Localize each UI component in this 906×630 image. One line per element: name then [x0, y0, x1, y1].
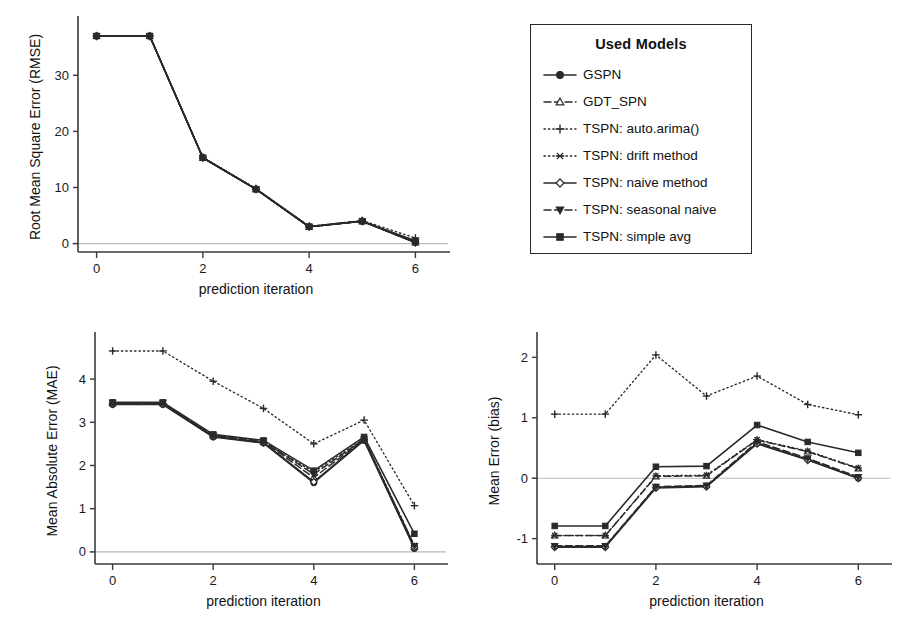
- series-line: [555, 442, 859, 546]
- x-axis-title: prediction iteration: [206, 593, 320, 609]
- data-point-marker: [603, 523, 608, 528]
- legend-marker-icon: [540, 93, 580, 111]
- legend-title: Used Models: [531, 36, 751, 52]
- series-tspn-auto-arima: [551, 351, 862, 418]
- data-point-marker: [754, 422, 759, 427]
- series-line: [97, 36, 416, 241]
- legend-key-tspn-naive: [540, 174, 580, 192]
- series-line: [113, 402, 415, 533]
- series-line: [97, 36, 416, 242]
- legend-marker-icon: [540, 120, 580, 138]
- legend-item-list: GSPNGDT_SPNTSPN: auto.arima()TSPN: drift…: [531, 61, 751, 250]
- y-tick-label: 10: [55, 180, 69, 195]
- data-point-marker: [110, 400, 115, 405]
- series-line: [97, 36, 416, 238]
- data-point-marker: [253, 186, 258, 191]
- data-point-marker: [653, 464, 658, 469]
- data-point-marker: [200, 155, 205, 160]
- rmse-chart: 01020300246prediction iterationRoot Mean…: [0, 0, 470, 310]
- legend-item-tspn-naive-method[interactable]: TSPN: naive method: [531, 169, 751, 196]
- series-line: [97, 36, 416, 242]
- data-point-marker: [211, 432, 216, 437]
- y-tick-label: 3: [79, 415, 86, 430]
- x-tick-label: 4: [753, 573, 760, 588]
- legend-item-gdt-spn[interactable]: GDT_SPN: [531, 88, 751, 115]
- series-gdt-spn: [93, 33, 418, 245]
- legend-marker-icon: [540, 66, 580, 84]
- legend-item-tspn-seasonal-naive[interactable]: TSPN: seasonal naive: [531, 196, 751, 223]
- y-axis-title: Mean Error (bias): [486, 397, 502, 506]
- y-tick-label: 0: [62, 236, 69, 251]
- y-axis-title: Root Mean Square Error (RMSE): [27, 34, 43, 240]
- x-tick-label: 4: [310, 573, 317, 588]
- legend-marker-icon: [540, 228, 580, 246]
- legend-key-tspn-simple-avg: [540, 228, 580, 246]
- x-axis-title: prediction iteration: [649, 593, 763, 609]
- x-tick-label: 6: [411, 573, 418, 588]
- series-line: [555, 443, 859, 546]
- series-gspn: [94, 33, 419, 245]
- y-tick-label: 4: [79, 372, 86, 387]
- bias-chart-panel: -10120246prediction iterationMean Error …: [440, 310, 906, 630]
- series-line: [113, 405, 415, 549]
- legend-key-gspn: [540, 66, 580, 84]
- rmse-chart-panel: 01020300246prediction iterationRoot Mean…: [0, 0, 470, 310]
- legend-item-label: TSPN: seasonal naive: [583, 202, 717, 217]
- data-point-marker: [310, 440, 318, 448]
- y-tick-label: -1: [516, 531, 528, 546]
- data-point-marker: [805, 439, 810, 444]
- x-tick-label: 6: [855, 573, 862, 588]
- data-point-marker: [855, 411, 863, 419]
- data-point-marker: [209, 377, 217, 385]
- legend-item-tspn-simple-avg[interactable]: TSPN: simple avg: [531, 223, 751, 250]
- data-point-marker: [360, 218, 365, 223]
- series-line: [113, 404, 415, 546]
- y-tick-label: 0: [79, 544, 86, 559]
- data-point-marker: [704, 463, 709, 468]
- series-tspn-simple-avg: [94, 33, 418, 243]
- legend-key-tspn-seasonal-naive: [540, 201, 580, 219]
- legend-item-tspn-auto-arima[interactable]: TSPN: auto.arima(): [531, 115, 751, 142]
- data-point-marker: [159, 347, 167, 355]
- legend-key-gdt-spn: [540, 93, 580, 111]
- series-gdt-spn: [109, 400, 417, 549]
- series-tspn-simple-avg: [110, 400, 417, 537]
- data-point-marker: [413, 238, 418, 243]
- series-line: [113, 351, 415, 506]
- series-line: [97, 36, 416, 242]
- y-tick-label: 1: [79, 501, 86, 516]
- y-axis-title: Mean Absolute Error (MAE): [44, 365, 60, 536]
- series-tspn-seasonal-naive: [93, 34, 418, 246]
- x-tick-label: 0: [551, 573, 558, 588]
- x-tick-label: 4: [306, 261, 313, 276]
- legend-marker-plus: [556, 124, 565, 133]
- legend-marker-icon: [540, 201, 580, 219]
- data-point-marker: [360, 416, 368, 424]
- series-tspn-auto-arima: [93, 32, 419, 241]
- x-tick-label: 0: [93, 261, 100, 276]
- x-tick-label: 6: [412, 261, 419, 276]
- legend-item-label: TSPN: drift method: [583, 148, 698, 163]
- data-point-marker: [551, 410, 559, 418]
- legend-item-label: TSPN: auto.arima(): [583, 121, 699, 136]
- series-line: [113, 403, 415, 546]
- series-line: [97, 36, 416, 242]
- bias-chart: -10120246prediction iterationMean Error …: [440, 310, 906, 630]
- legend-marker-square-filled: [557, 233, 563, 239]
- series-tspn-drift-method: [93, 33, 419, 244]
- series-line: [555, 355, 859, 415]
- series-line: [113, 404, 415, 547]
- series-tspn-drift-method: [109, 401, 418, 548]
- legend-item-gspn[interactable]: GSPN: [531, 61, 751, 88]
- legend-item-label: GDT_SPN: [583, 94, 647, 109]
- y-tick-label: 2: [521, 350, 528, 365]
- data-point-marker: [856, 450, 861, 455]
- legend-item-label: TSPN: naive method: [583, 175, 708, 190]
- legend-item-tspn-drift-method[interactable]: TSPN: drift method: [531, 142, 751, 169]
- x-tick-label: 2: [652, 573, 659, 588]
- mae-chart-panel: 012340246prediction iterationMean Absolu…: [0, 310, 470, 630]
- y-tick-label: 30: [55, 68, 69, 83]
- mae-chart: 012340246prediction iterationMean Absolu…: [0, 310, 470, 630]
- data-point-marker: [306, 224, 311, 229]
- data-point-marker: [311, 468, 316, 473]
